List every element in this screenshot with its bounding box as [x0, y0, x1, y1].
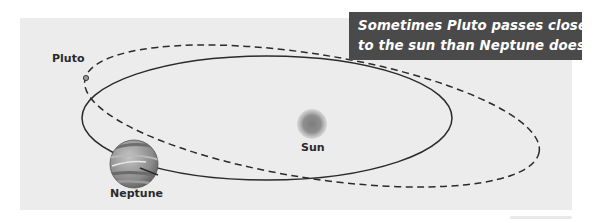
neptune-planet-icon — [108, 140, 160, 188]
caption-line-1: Sometimes Pluto passes closer — [358, 16, 582, 36]
pluto-planet-icon — [83, 75, 88, 80]
neptune-label: Neptune — [110, 187, 163, 200]
pluto-label: Pluto — [52, 52, 84, 65]
caption-box: Sometimes Pluto passes closer to the sun… — [349, 12, 582, 60]
caption-line-2: to the sun than Neptune does. — [358, 36, 582, 56]
sun-label: Sun — [301, 141, 325, 154]
decorative-divider — [510, 216, 572, 219]
sun-icon — [297, 109, 327, 139]
